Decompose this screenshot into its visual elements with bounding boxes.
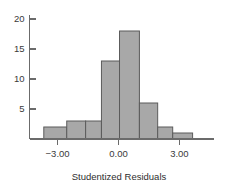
chart-canvas: 5101520 −3.000.003.00 Studentized Residu… — [0, 0, 230, 192]
bars-group — [44, 31, 193, 139]
histogram-bar — [158, 127, 173, 139]
histogram-bar — [173, 133, 193, 139]
y-tick-label: 20 — [14, 13, 25, 24]
x-tick-label: 0.00 — [109, 148, 128, 159]
y-tick-label: 5 — [19, 103, 24, 114]
x-axis-title: Studentized Residuals — [72, 171, 167, 182]
x-tick-group: −3.000.003.00 — [46, 139, 189, 159]
y-tick-group: 5101520 — [14, 13, 36, 114]
histogram-bar — [120, 31, 140, 139]
histogram-bar — [86, 121, 102, 139]
histogram-bar — [101, 61, 119, 139]
x-tick-label: 3.00 — [170, 148, 189, 159]
histogram-chart: 5101520 −3.000.003.00 Studentized Residu… — [0, 0, 230, 192]
x-tick-label: −3.00 — [46, 148, 70, 159]
histogram-bar — [139, 103, 157, 139]
histogram-bar — [67, 121, 86, 139]
y-tick-label: 10 — [14, 73, 25, 84]
y-tick-label: 15 — [14, 43, 25, 54]
histogram-bar — [44, 127, 67, 139]
